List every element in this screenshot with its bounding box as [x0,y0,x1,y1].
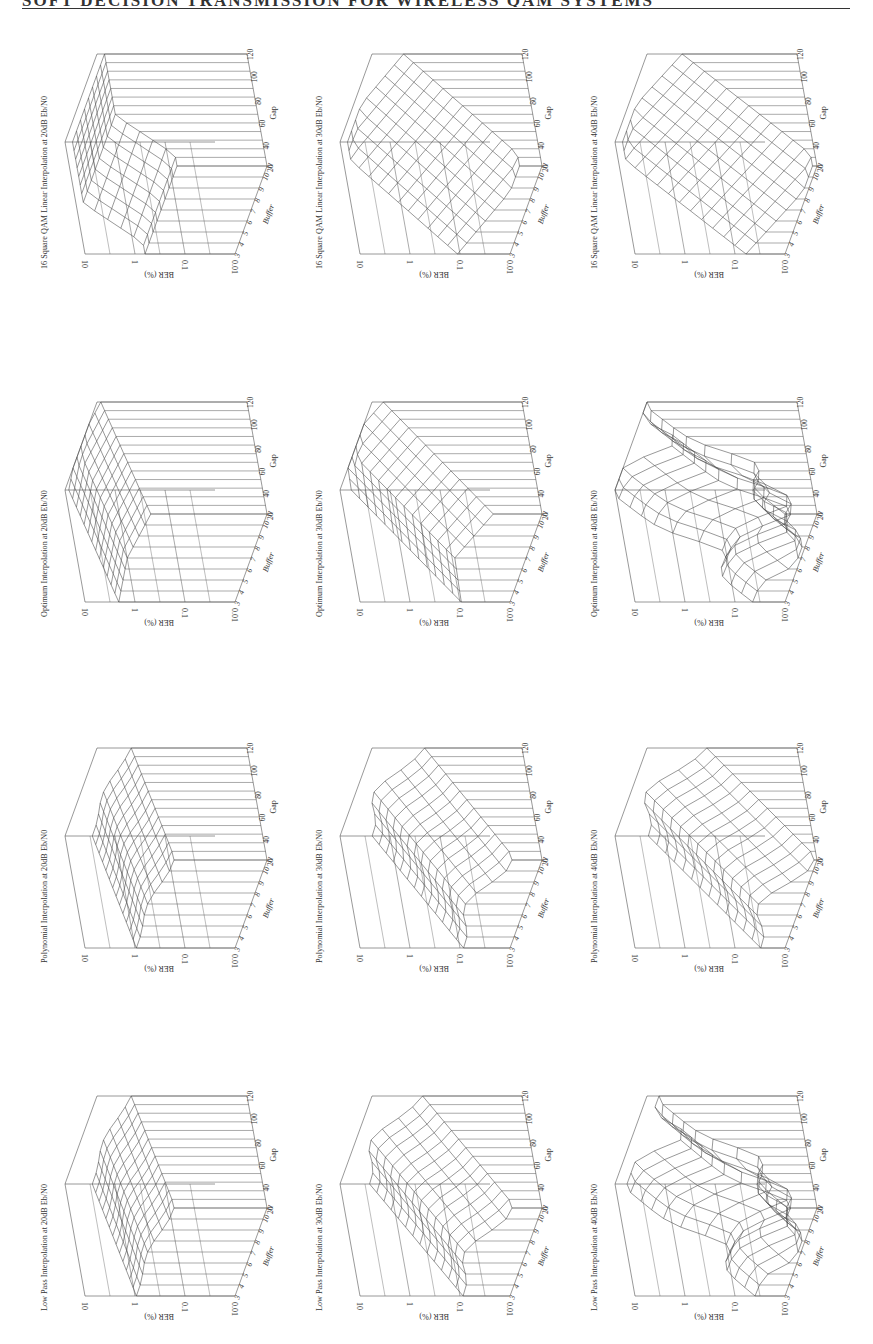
plot-title: Polynomial Interpolation at 40dB Eb/N0 [590,830,599,963]
gap-tick-label: 80 [254,97,263,105]
gap-tick-label: 80 [254,791,263,799]
ber-tick-label: 0.01 [230,608,239,622]
gap-axis-label: Gap [544,1148,553,1161]
ber-tick-label: 1 [405,608,414,612]
gap-tick-label: 60 [258,813,267,821]
buffer-axis-label: Buffer [536,1244,552,1267]
ber-axis-label: BER (%) [694,618,724,627]
gap-tick-label: 20 [541,512,550,520]
gap-tick-label: 40 [262,836,271,844]
ber-axis-label: BER (%) [419,270,449,279]
ber-tick-label: 1 [680,608,689,612]
surface-plot-poly-40: Polynomial Interpolation at 40dB Eb/N010… [585,738,855,1038]
gap-axis-label: Gap [269,454,278,467]
gap-tick-label: 20 [266,164,275,172]
surface-plot-qam-40: 16 Square QAM Linear Interpolation at 40… [585,44,855,344]
buffer-axis-label: Buffer [536,202,552,225]
ber-tick-label: 1 [130,954,139,958]
ber-tick-label: 10 [630,954,639,962]
plot-title: Low Pass Interpolation at 20dB Eb/N0 [40,1184,49,1311]
ber-tick-label: 10 [355,260,364,268]
buffer-tick-label: 3 [232,946,242,954]
gap-axis-label: Gap [819,1148,828,1161]
ber-tick-label: 10 [355,608,364,616]
surface-plot-canvas: Low Pass Interpolation at 40dB Eb/N01010… [585,1086,855,1344]
gap-tick-label: 80 [804,1139,813,1147]
ber-tick-label: 10 [630,260,639,268]
gap-tick-label: 120 [246,49,255,61]
gap-axis-label: Gap [269,106,278,119]
gap-tick-label: 120 [521,49,530,61]
gap-tick-label: 40 [812,1184,821,1192]
ber-tick-label: 10 [80,608,89,616]
ber-tick-label: 0.01 [780,954,789,968]
gap-tick-label: 100 [800,71,809,83]
ber-tick-label: 10 [355,1302,364,1310]
buffer-axis-label: Buffer [261,202,277,225]
gap-tick-label: 20 [816,1206,825,1214]
ber-tick-label: 10 [630,608,639,616]
gap-tick-label: 20 [816,858,825,866]
gap-tick-label: 100 [250,765,259,777]
surface-plot-opt-20: Optimum Interpolation at 20dB Eb/N01010.… [35,392,305,692]
gap-tick-label: 20 [266,512,275,520]
buffer-tick-label: 3 [232,600,242,608]
surface-plot-canvas: Polynomial Interpolation at 20dB Eb/N010… [35,738,305,1038]
ber-tick-label: 0.1 [180,954,189,964]
buffer-tick-label: 3 [782,946,792,954]
ber-tick-label: 0.1 [730,608,739,618]
gap-tick-label: 120 [521,743,530,755]
plot-title: 16 Square QAM Linear Interpolation at 30… [315,96,324,269]
plot-title: Low Pass Interpolation at 30dB Eb/N0 [315,1184,324,1311]
gap-tick-label: 20 [541,164,550,172]
gap-tick-label: 80 [529,791,538,799]
gap-tick-label: 60 [258,119,267,127]
surface-plot-canvas: 16 Square QAM Linear Interpolation at 20… [35,44,305,344]
surface-plot-lp-40: Low Pass Interpolation at 40dB Eb/N01010… [585,1086,855,1344]
gap-tick-label: 20 [266,1206,275,1214]
ber-tick-label: 0.01 [230,954,239,968]
surface-plot-opt-30: Optimum Interpolation at 30dB Eb/N01010.… [310,392,580,692]
buffer-axis-label: Buffer [811,202,827,225]
surface-plot-poly-30: Polynomial Interpolation at 30dB Eb/N010… [310,738,580,1038]
surface-plot-canvas: Polynomial Interpolation at 30dB Eb/N010… [310,738,580,1038]
buffer-tick-label: 3 [507,1294,517,1302]
buffer-tick-label: 3 [507,600,517,608]
ber-tick-label: 0.01 [505,954,514,968]
ber-tick-label: 0.1 [455,608,464,618]
gap-tick-label: 120 [521,397,530,409]
ber-axis-label: BER (%) [694,964,724,973]
surface-plot-canvas: Optimum Interpolation at 40dB Eb/N01010.… [585,392,855,692]
gap-tick-label: 100 [250,419,259,431]
ber-tick-label: 1 [680,260,689,264]
gap-tick-label: 80 [254,445,263,453]
gap-tick-label: 60 [533,467,542,475]
ber-tick-label: 10 [80,260,89,268]
gap-tick-label: 80 [804,791,813,799]
gap-tick-label: 120 [796,49,805,61]
gap-tick-label: 100 [800,1113,809,1125]
surface-plot-canvas: 16 Square QAM Linear Interpolation at 30… [310,44,580,344]
ber-tick-label: 0.01 [230,260,239,274]
buffer-tick-label: 3 [782,1294,792,1302]
gap-tick-label: 20 [541,858,550,866]
ber-tick-label: 1 [680,1302,689,1306]
plot-title: Low Pass Interpolation at 40dB Eb/N0 [590,1184,599,1311]
ber-tick-label: 1 [130,608,139,612]
gap-tick-label: 60 [533,119,542,127]
gap-axis-label: Gap [819,106,828,119]
ber-axis-label: BER (%) [144,964,174,973]
surface-plot-canvas: Low Pass Interpolation at 30dB Eb/N01010… [310,1086,580,1344]
gap-tick-label: 80 [529,97,538,105]
gap-tick-label: 120 [521,1091,530,1103]
ber-tick-label: 10 [80,1302,89,1310]
buffer-tick-label: 3 [507,946,517,954]
buffer-tick-label: 3 [232,252,242,260]
gap-tick-label: 40 [262,142,271,150]
ber-tick-label: 0.01 [505,608,514,622]
gap-tick-label: 40 [537,142,546,150]
ber-tick-label: 1 [680,954,689,958]
ber-axis-label: BER (%) [144,618,174,627]
ber-tick-label: 0.1 [180,608,189,618]
plot-title: Optimum Interpolation at 20dB Eb/N0 [40,490,49,617]
